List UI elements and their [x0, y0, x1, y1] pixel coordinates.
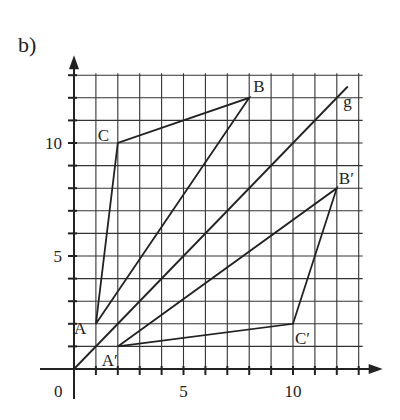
y-tick-label: 5: [54, 247, 63, 266]
shapes: [74, 87, 348, 370]
y-tick-label: 10: [45, 134, 62, 153]
part-label: b): [18, 32, 36, 57]
line-g-label: g: [343, 92, 352, 111]
mirror-line-g: [74, 87, 348, 370]
reflection-diagram: 0510510gABCA′B′C′ b): [0, 0, 400, 420]
point-label-c: C: [98, 126, 109, 145]
point-label-a: A: [74, 319, 87, 338]
point-label-b: B: [253, 77, 264, 96]
x-tick-label: 5: [179, 382, 188, 401]
point-label-c-prime: C′: [295, 329, 310, 348]
point-label-b-prime: B′: [339, 169, 354, 188]
x-tick-label: 10: [285, 382, 302, 401]
x-axis-arrow-icon: [369, 364, 383, 374]
point-label-a-prime: A′: [102, 351, 118, 370]
origin-label: 0: [54, 382, 63, 401]
y-axis-arrow-icon: [69, 55, 79, 69]
